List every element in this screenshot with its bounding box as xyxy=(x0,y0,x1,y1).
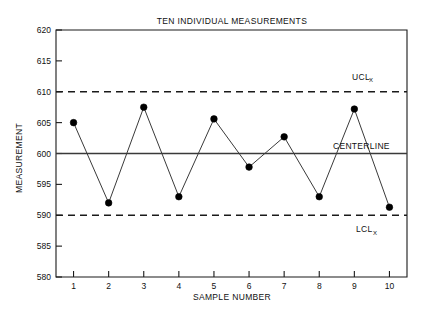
x-tick-label: 3 xyxy=(141,281,146,291)
x-tick-label: 8 xyxy=(317,281,322,291)
data-point-marker[interactable] xyxy=(176,193,183,200)
y-tick-label: 600 xyxy=(37,149,51,159)
data-point-marker[interactable] xyxy=(211,116,218,123)
data-point-marker[interactable] xyxy=(351,106,358,113)
data-point-marker[interactable] xyxy=(70,119,77,126)
y-tick-label: 590 xyxy=(37,210,51,220)
data-point-marker[interactable] xyxy=(386,204,393,211)
y-tick-label: 620 xyxy=(37,25,51,35)
x-tick-label: 2 xyxy=(106,281,111,291)
x-axis-title: SAMPLE NUMBER xyxy=(193,292,271,302)
x-tick-label: 5 xyxy=(212,281,217,291)
x-tick-label: 6 xyxy=(247,281,252,291)
y-tick-label: 605 xyxy=(37,118,51,128)
data-point-marker[interactable] xyxy=(316,193,323,200)
y-tick-label: 610 xyxy=(37,87,51,97)
centerline-label: CENTERLINE xyxy=(333,141,390,151)
y-tick-label: 580 xyxy=(37,272,51,282)
data-point-marker[interactable] xyxy=(281,134,288,141)
x-tick-label: 7 xyxy=(282,281,287,291)
y-tick-label: 585 xyxy=(37,241,51,251)
x-tick-label: 4 xyxy=(176,281,181,291)
chart-title: TEN INDIVIDUAL MEASUREMENTS xyxy=(157,16,307,26)
x-tick-label: 1 xyxy=(71,281,76,291)
control-chart-figure: TEN INDIVIDUAL MEASUREMENTS 580585590595… xyxy=(0,0,440,321)
x-tick-label: 10 xyxy=(385,281,395,291)
y-tick-label: 615 xyxy=(37,56,51,66)
ucl-label: UCL xyxy=(352,72,370,82)
data-point-marker[interactable] xyxy=(246,164,253,171)
data-point-marker[interactable] xyxy=(105,200,112,207)
y-axis-title: MEASUREMENT xyxy=(14,123,24,193)
data-point-marker[interactable] xyxy=(140,104,147,111)
x-tick-label: 9 xyxy=(352,281,357,291)
lcl-label-subscript: X xyxy=(373,230,377,236)
chart-canvas: TEN INDIVIDUAL MEASUREMENTS 580585590595… xyxy=(0,0,440,321)
lcl-label: LCL xyxy=(356,224,373,234)
y-tick-label: 595 xyxy=(37,179,51,189)
chart-background xyxy=(0,0,440,321)
ucl-label-subscript: X xyxy=(369,77,373,83)
